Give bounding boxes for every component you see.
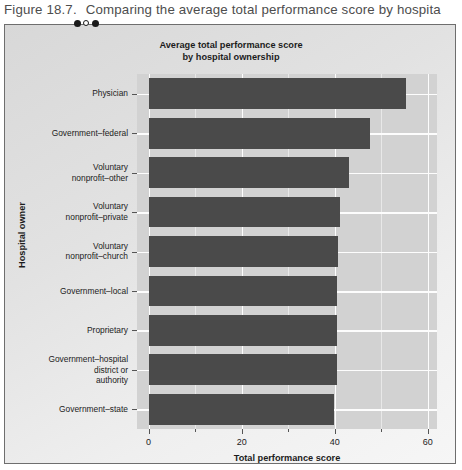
- y-axis-tick: [132, 409, 137, 410]
- x-axis-tick-label: 60: [408, 437, 448, 447]
- y-axis-tick-label: Voluntary nonprofit–private: [10, 201, 128, 222]
- dot-filled-left: [74, 20, 81, 27]
- y-axis-tick: [132, 252, 137, 253]
- caption-dots-decoration: [74, 20, 106, 28]
- bar: [149, 394, 334, 425]
- x-axis-tick-major: [335, 429, 336, 434]
- x-axis-tick-minor: [195, 429, 196, 432]
- y-axis-tick-label: Voluntary nonprofit–church: [10, 241, 128, 262]
- y-axis-tick-label: Government–local: [10, 286, 128, 297]
- x-axis-tick-minor: [381, 429, 382, 432]
- x-axis-tick-label: 40: [315, 437, 355, 447]
- y-axis-tick: [132, 173, 137, 174]
- y-axis-tick: [132, 94, 137, 95]
- bar: [149, 78, 406, 109]
- bar: [149, 315, 337, 346]
- y-axis-tick-label: Government–federal: [10, 128, 128, 139]
- figure-frame: Average total performance score by hospi…: [4, 24, 456, 464]
- dot-hollow-middle: [83, 20, 89, 26]
- bar: [149, 354, 337, 385]
- x-axis-tick-minor: [288, 429, 289, 432]
- x-axis-title: Total performance score: [137, 453, 437, 463]
- y-axis-tick-label: Proprietary: [10, 325, 128, 336]
- x-axis-tick-label: 20: [222, 437, 262, 447]
- y-axis-tick-label: Physician: [10, 88, 128, 99]
- bar: [149, 157, 349, 188]
- y-axis-tick: [132, 330, 137, 331]
- figure-caption-number: Figure 18.7.: [4, 2, 77, 17]
- bar: [149, 276, 338, 307]
- y-axis-tick-label: Government–hospital district or authorit…: [10, 354, 128, 386]
- x-axis-tick-label: 0: [129, 437, 169, 447]
- bar: [149, 118, 371, 149]
- figure-caption-text: Comparing the average total performance …: [86, 2, 441, 17]
- bar: [149, 236, 339, 267]
- dot-filled-right: [92, 20, 99, 27]
- chart-title-line-1: Average total performance score: [5, 39, 456, 51]
- chart-title: Average total performance score by hospi…: [5, 39, 456, 63]
- y-axis-tick: [132, 133, 137, 134]
- plot-panel: [137, 74, 437, 429]
- figure-caption: Figure 18.7.Comparing the average total …: [4, 2, 462, 17]
- y-axis-tick: [132, 212, 137, 213]
- y-axis-tick-label: Voluntary nonprofit–other: [10, 162, 128, 183]
- x-axis-tick-major: [428, 429, 429, 434]
- bars-layer: [137, 74, 437, 429]
- y-axis-tick-label: Government–state: [10, 404, 128, 415]
- chart-title-line-2: by hospital ownership: [5, 51, 456, 63]
- bar: [149, 197, 341, 228]
- x-axis-tick-major: [149, 429, 150, 434]
- x-axis-tick-major: [242, 429, 243, 434]
- y-axis-tick: [132, 370, 137, 371]
- y-axis-title: Hospital owner: [17, 175, 27, 295]
- y-axis-tick: [132, 291, 137, 292]
